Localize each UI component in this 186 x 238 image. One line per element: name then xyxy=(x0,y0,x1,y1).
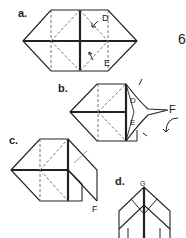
arrow-down-small-icon xyxy=(143,133,147,136)
point-d-label: D xyxy=(130,96,136,105)
point-f-label: F xyxy=(169,103,176,115)
diagram-d-label: d. xyxy=(115,175,125,187)
point-f-label: F xyxy=(92,204,98,214)
diagram-a-label: a. xyxy=(18,7,27,19)
diagram-c: c. F xyxy=(9,134,98,214)
diagram-a: a. D E xyxy=(18,7,137,71)
diagram-b: b. D E F xyxy=(58,79,178,141)
origami-diagram: 6 a. D E b. xyxy=(0,0,186,238)
step-number: 6 xyxy=(178,31,186,47)
diagram-d: d. G xyxy=(115,175,170,238)
arrow-up-icon xyxy=(139,79,142,85)
point-e-label: E xyxy=(104,58,110,68)
diagram-b-label: b. xyxy=(58,82,68,94)
rotate-arrow-icon xyxy=(163,118,178,132)
point-d-label: D xyxy=(102,13,109,23)
point-e-label: E xyxy=(130,118,135,127)
point-g-label: G xyxy=(140,180,145,187)
diagram-c-label: c. xyxy=(9,134,18,146)
